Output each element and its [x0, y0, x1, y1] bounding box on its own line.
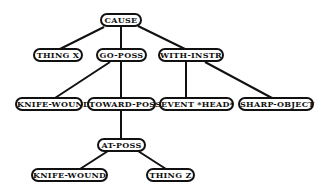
- edge-at-poss-thing-z: [138, 151, 166, 169]
- edge-layer: [0, 0, 327, 189]
- edge-cause-with-instr: [138, 26, 185, 49]
- node-label: CAUSE: [105, 15, 138, 25]
- node-label: GO-POSS: [100, 50, 144, 60]
- node-knife-wound-2: KNIFE-WOUND: [31, 168, 108, 182]
- node-event-head: EVENT *HEAD*: [159, 97, 234, 111]
- node-cause: CAUSE: [100, 13, 142, 27]
- node-label: THING Z: [149, 170, 191, 180]
- node-toward-poss: TOWARD-POSS: [87, 97, 156, 111]
- edge-cause-thing-x: [60, 27, 104, 49]
- node-thing-x: THING X: [33, 48, 83, 62]
- node-knife-wound: KNIFE-WOUND: [15, 97, 83, 111]
- edge-go-poss-knife-wound-1: [55, 62, 110, 98]
- node-with-instr: WITH-INSTR: [158, 48, 224, 62]
- node-thing-z: THING Z: [146, 168, 195, 182]
- node-label: KNIFE-WOUND: [17, 99, 90, 109]
- node-label: KNIFE-WOUND: [33, 170, 106, 180]
- edge-at-poss-knife-wound-2: [80, 151, 108, 169]
- edge-with-instr-sharp-object: [205, 62, 272, 98]
- node-label: THING X: [37, 50, 80, 60]
- node-label: EVENT *HEAD*: [161, 99, 234, 109]
- node-go-poss: GO-POSS: [96, 48, 147, 62]
- node-label: SHARP-OBJECT: [240, 99, 315, 109]
- node-sharp-object: SHARP-OBJECT: [238, 97, 314, 111]
- node-label: WITH-INSTR: [160, 50, 222, 60]
- node-at-poss: AT-POSS: [97, 138, 146, 152]
- node-label: TOWARD-POSS: [89, 99, 161, 109]
- node-label: AT-POSS: [101, 140, 141, 150]
